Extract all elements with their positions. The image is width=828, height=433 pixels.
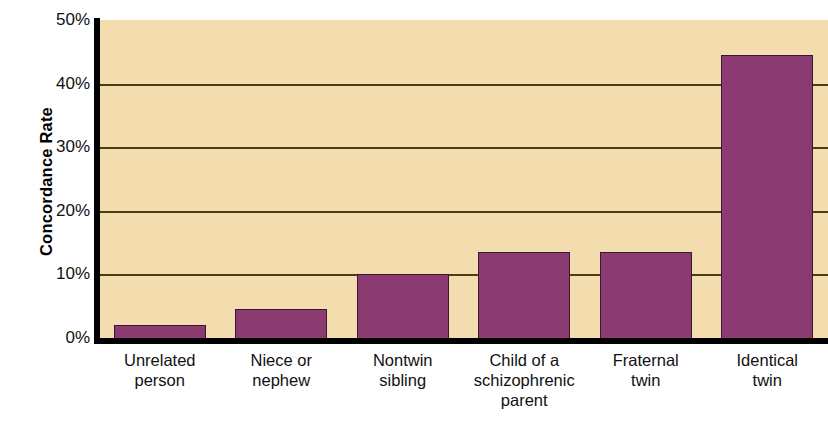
- y-axis-tick-20: 20%: [22, 202, 90, 219]
- x-axis-label-line: twin: [585, 370, 707, 390]
- bars-layer: [99, 20, 828, 338]
- x-axis-label-1: Unrelatedperson: [99, 350, 221, 390]
- x-axis-label-line: Niece or: [221, 350, 343, 370]
- x-axis-label-line: Unrelated: [99, 350, 221, 370]
- bar-1: [114, 325, 206, 338]
- x-axis-label-4: Child of aschizophrenicparent: [464, 350, 586, 410]
- bar-5: [600, 252, 692, 338]
- y-axis-tick-40: 40%: [22, 75, 90, 92]
- bar-2: [235, 309, 327, 338]
- x-axis-label-3: Nontwinsibling: [342, 350, 464, 390]
- y-axis-line: [94, 18, 100, 344]
- bar-3: [357, 274, 449, 338]
- concordance-rate-bar-chart: Concordance Rate 0%10%20%30%40%50% Unrel…: [0, 0, 828, 433]
- y-axis-tick-labels: 0%10%20%30%40%50%: [22, 0, 90, 433]
- x-axis-label-line: twin: [707, 370, 828, 390]
- x-axis-label-line: nephew: [221, 370, 343, 390]
- y-axis-tick-10: 10%: [22, 265, 90, 282]
- bar-4: [478, 252, 570, 338]
- x-axis-label-line: person: [99, 370, 221, 390]
- x-axis-label-line: Fraternal: [585, 350, 707, 370]
- y-axis-tick-0: 0%: [22, 329, 90, 346]
- x-axis-line: [94, 338, 828, 344]
- bar-6: [721, 55, 813, 338]
- x-axis-label-6: Identicaltwin: [707, 350, 828, 390]
- x-axis-category-labels: UnrelatedpersonNiece ornephewNontwinsibl…: [94, 350, 828, 430]
- x-axis-label-line: schizophrenic: [464, 370, 586, 390]
- x-axis-label-line: Nontwin: [342, 350, 464, 370]
- x-axis-label-line: sibling: [342, 370, 464, 390]
- x-axis-label-line: Identical: [707, 350, 828, 370]
- x-axis-label-line: parent: [464, 390, 586, 410]
- x-axis-label-line: Child of a: [464, 350, 586, 370]
- plot-area: [94, 18, 828, 344]
- x-axis-label-2: Niece ornephew: [221, 350, 343, 390]
- x-axis-label-5: Fraternaltwin: [585, 350, 707, 390]
- y-axis-tick-50: 50%: [22, 11, 90, 28]
- y-axis-tick-30: 30%: [22, 138, 90, 155]
